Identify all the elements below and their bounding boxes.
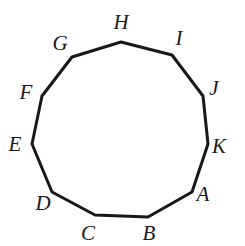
- vertex-label-j: J: [209, 78, 218, 99]
- vertex-label-a: A: [197, 184, 210, 205]
- hendecagon-outline: [32, 42, 208, 217]
- vertex-label-h: H: [113, 12, 128, 33]
- vertex-label-e: E: [9, 134, 22, 155]
- hendecagon-figure: ABCDEFGHIJK: [0, 0, 245, 246]
- vertex-label-b: B: [143, 223, 156, 244]
- vertex-label-i: I: [176, 28, 183, 49]
- vertex-label-c: C: [81, 223, 95, 244]
- vertex-label-g: G: [52, 33, 67, 54]
- vertex-label-k: K: [212, 136, 226, 157]
- vertex-label-d: D: [35, 193, 50, 214]
- vertex-label-f: F: [20, 82, 33, 103]
